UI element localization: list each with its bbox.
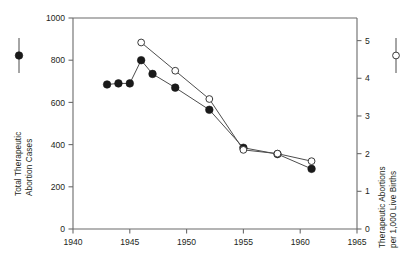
data-point-2-5[interactable] (274, 150, 281, 157)
x-axis-tick-label: 1940 (63, 237, 82, 247)
left-axis-tick-label: 800 (51, 55, 66, 65)
data-point-1-6[interactable] (171, 84, 179, 92)
left-axis-title: Total Therapeutic (14, 132, 23, 196)
left-axis-tick-label: 1000 (46, 13, 65, 23)
data-point-1-7[interactable] (206, 106, 214, 114)
data-point-1-5[interactable] (149, 70, 157, 78)
series-line-2 (141, 42, 311, 161)
data-point-1-4[interactable] (137, 56, 145, 64)
right-axis-title-secondary: per 1,000 Live Births (389, 171, 398, 248)
left-axis-title-secondary: Abortion Cases (25, 139, 34, 196)
data-point-1-2[interactable] (115, 80, 123, 88)
right-axis-title-line-2: per 1,000 Live Births (389, 171, 398, 248)
data-point-2-4[interactable] (240, 146, 247, 153)
data-point-2-6[interactable] (308, 158, 315, 165)
left-axis-tick-label: 400 (51, 140, 66, 150)
data-point-2-1[interactable] (138, 39, 145, 46)
left-axis-title-line-1: Total Therapeutic (14, 132, 23, 196)
x-axis-tick-label: 1950 (177, 237, 196, 247)
legend-right-marker-open-circle[interactable] (393, 52, 400, 59)
data-point-1-10[interactable] (308, 165, 316, 173)
data-point-2-2[interactable] (172, 67, 179, 74)
x-axis-tick-label: 1945 (120, 237, 139, 247)
right-axis-title-line-1: Therapeutic Abortions (378, 166, 387, 248)
x-axis-tick-label: 1960 (291, 237, 310, 247)
right-axis-tick-label: 0 (365, 224, 370, 234)
left-axis-tick-label: 0 (60, 224, 65, 234)
left-axis-tick-label: 200 (51, 182, 66, 192)
data-point-1-3[interactable] (126, 80, 134, 88)
right-axis-tick-label: 4 (365, 73, 370, 83)
right-axis-tick-label: 3 (365, 111, 370, 121)
legend-left-marker-filled-circle[interactable] (15, 52, 23, 60)
right-axis-tick-label: 1 (365, 186, 370, 196)
x-axis-tick-label: 1965 (347, 237, 366, 247)
left-axis-title-line-2: Abortion Cases (25, 139, 34, 196)
right-axis-title: Therapeutic Abortions (378, 166, 387, 248)
data-point-2-3[interactable] (206, 96, 213, 103)
x-axis-tick-label: 1955 (234, 237, 253, 247)
left-axis-tick-label: 600 (51, 98, 66, 108)
chart-canvas: 0200400600800100001234519401945195019551… (0, 0, 416, 270)
data-point-1-1[interactable] (103, 81, 111, 89)
right-axis-tick-label: 2 (365, 149, 370, 159)
right-axis-tick-label: 5 (365, 36, 370, 46)
chart-figure: 0200400600800100001234519401945195019551… (0, 0, 416, 270)
